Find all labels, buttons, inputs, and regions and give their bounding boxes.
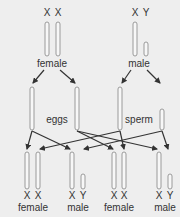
chromosome-x (133, 22, 137, 56)
offspring-2-chrom-label-1: X (69, 191, 76, 201)
sperm-chromosome-y (160, 109, 164, 130)
parent-female-label: female (37, 59, 67, 69)
chromosome-y (168, 174, 172, 189)
offspring-1-label: female (18, 203, 48, 213)
offspring-4-chrom-label-2: Y (167, 191, 174, 201)
chromosome-x (112, 152, 116, 189)
offspring-1-chrom-label-1: X (24, 191, 31, 201)
chromosome-x (157, 152, 161, 189)
parent-male-label: male (128, 59, 150, 69)
offspring-4-chrom-label-1: X (156, 191, 163, 201)
egg-chromosome-x (75, 87, 79, 130)
parent-female-chrom-label-1: X (44, 8, 51, 18)
parent-male-chrom-label-2: Y (143, 8, 150, 18)
offspring-3-chrom-label-2: X (121, 191, 128, 201)
offspring-2-label: male (67, 203, 89, 213)
parent-female-chrom-label-2: X (55, 8, 62, 18)
chromosome-x (36, 152, 40, 189)
chromosome-x (45, 22, 49, 56)
chromosome-y (81, 174, 85, 189)
chromosome-x (25, 152, 29, 189)
sex-determination-diagram (0, 0, 180, 217)
offspring-4-label: male (154, 203, 176, 213)
offspring-2-chrom-label-2: Y (80, 191, 87, 201)
chromosome-x (122, 152, 126, 189)
offspring-1-chrom-label-2: X (35, 191, 42, 201)
chromosome-x (56, 22, 60, 56)
chromosome-x (70, 152, 74, 189)
parent-male-chrom-label-1: X (132, 8, 139, 18)
egg-chromosome-x (30, 87, 34, 130)
offspring-3-label: female (104, 203, 134, 213)
eggs-label: eggs (46, 115, 68, 125)
chromosome-y (144, 42, 148, 56)
offspring-3-chrom-label-1: X (111, 191, 118, 201)
sperm-label: sperm (125, 115, 153, 125)
sperm-chromosome-x (118, 87, 122, 130)
